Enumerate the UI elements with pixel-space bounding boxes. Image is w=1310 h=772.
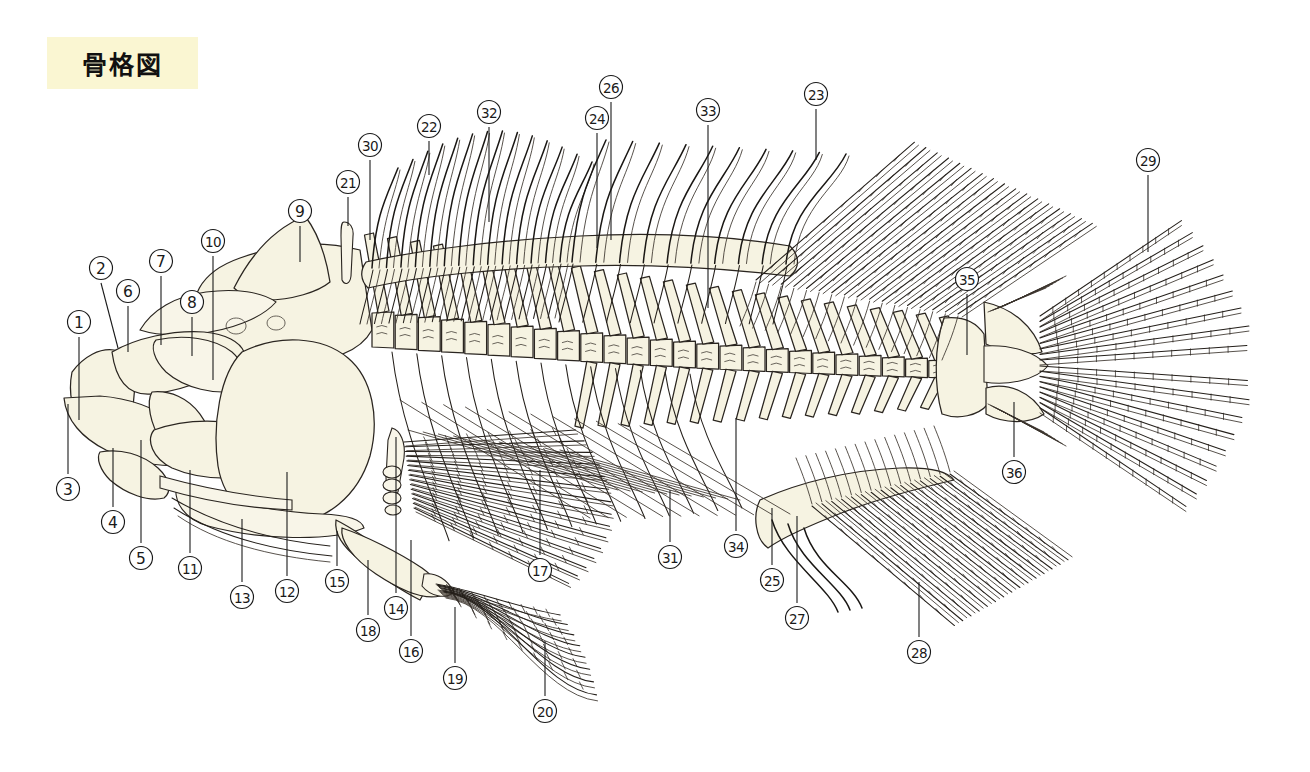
label-number: 23	[808, 87, 824, 103]
vertebra	[697, 343, 719, 369]
anal-fin-group	[772, 426, 1072, 626]
haemal-spine	[713, 369, 736, 422]
label-number: 19	[447, 671, 463, 687]
vertebral-column-group	[362, 233, 1048, 548]
label-number: 32	[481, 105, 497, 121]
haemal-spine	[805, 373, 828, 417]
anal-ray	[920, 481, 1044, 574]
pelvic-fin-group	[342, 528, 598, 701]
label-number: 2	[96, 260, 106, 278]
dorsal-soft-ray	[807, 163, 960, 288]
label-22[interactable]: 22	[418, 115, 441, 176]
label-2[interactable]: 2	[90, 257, 119, 349]
label-number: 36	[1006, 465, 1022, 481]
label-29[interactable]: 29	[1137, 149, 1160, 253]
vertebra	[442, 319, 464, 353]
label-number: 26	[603, 80, 619, 96]
vertebra	[581, 333, 603, 363]
vertebra	[650, 339, 672, 366]
haemal-spine	[736, 370, 759, 421]
label-23[interactable]: 23	[805, 83, 828, 161]
predorsal-bone	[341, 222, 353, 283]
label-number: 24	[589, 111, 605, 127]
vertebra	[906, 358, 928, 377]
label-number: 25	[764, 573, 780, 589]
vertebra	[418, 317, 440, 352]
haemal-spine	[782, 372, 805, 418]
label-number: 5	[136, 550, 146, 568]
label-number: 30	[362, 138, 378, 154]
vertebra	[743, 347, 765, 371]
haemal-spine	[759, 371, 782, 419]
dorsal-soft-ray	[819, 168, 971, 290]
haemal-spine	[690, 368, 713, 423]
label-19[interactable]: 19	[444, 607, 467, 690]
label-number: 8	[187, 294, 197, 312]
vertebra	[674, 341, 696, 368]
vertebra	[488, 324, 510, 356]
vertebra	[813, 352, 835, 374]
diagram-canvas: 骨格図	[0, 0, 1310, 772]
label-number: 15	[329, 574, 345, 590]
label-number: 29	[1140, 153, 1156, 169]
label-number: 12	[279, 584, 295, 600]
pelvic-ray	[443, 591, 594, 682]
caudal-peduncle-bone	[936, 318, 988, 417]
label-number: 34	[728, 539, 744, 555]
anal-ray	[901, 485, 1028, 582]
haemal-spine	[898, 377, 922, 411]
label-28[interactable]: 28	[908, 582, 931, 664]
dorsal-soft-ray	[933, 214, 1071, 310]
label-number: 28	[911, 645, 927, 661]
label-number: 21	[340, 175, 356, 191]
label-number: 13	[234, 590, 250, 606]
vertebra	[465, 321, 487, 354]
vertebra	[511, 326, 533, 358]
vertebra	[534, 328, 556, 359]
vertebra	[627, 337, 649, 365]
procurrent-ray	[1004, 276, 1066, 306]
vertebra	[790, 350, 812, 373]
label-number: 18	[360, 623, 376, 639]
leader-line	[101, 283, 118, 348]
label-number: 4	[108, 514, 118, 532]
label-34[interactable]: 34	[725, 418, 748, 558]
vertebra	[836, 354, 858, 376]
label-number: 33	[700, 103, 716, 119]
label-number: 3	[63, 481, 73, 499]
vertebra	[558, 331, 580, 361]
pectoral-fin-group	[404, 428, 613, 588]
label-number: 27	[789, 611, 805, 627]
fish-skeleton-illustration: 1234567891011121314151617181920212223242…	[0, 0, 1310, 772]
haemal-spine	[621, 364, 643, 426]
label-number: 11	[182, 561, 198, 577]
label-24[interactable]: 24	[586, 107, 609, 249]
label-21[interactable]: 21	[337, 171, 360, 227]
haemal-spine	[598, 363, 620, 428]
vertebra	[766, 349, 788, 373]
haemal-spine	[828, 374, 852, 415]
label-number: 1	[74, 314, 84, 332]
label-20[interactable]: 20	[534, 641, 557, 723]
intermuscular-bone	[618, 424, 772, 515]
label-number: 9	[295, 203, 305, 221]
label-number: 35	[959, 272, 975, 288]
label-number: 22	[421, 119, 437, 135]
label-number: 14	[388, 601, 404, 617]
label-31[interactable]: 31	[659, 490, 682, 569]
label-33[interactable]: 33	[697, 99, 720, 309]
label-number: 31	[662, 550, 678, 566]
label-number: 20	[537, 704, 553, 720]
label-number: 7	[156, 253, 166, 271]
label-number: 6	[123, 283, 133, 301]
caudal-ray	[1040, 308, 1241, 349]
vertebra	[720, 345, 742, 370]
label-number: 16	[403, 644, 419, 660]
dorsal-soft-ray	[794, 158, 949, 286]
haemal-spine	[851, 375, 875, 414]
dorsal-soft-ray	[958, 223, 1092, 314]
vertebra	[882, 357, 904, 377]
haemal-spine	[644, 365, 666, 425]
haemal-spine	[874, 376, 898, 413]
label-number: 10	[205, 234, 221, 250]
